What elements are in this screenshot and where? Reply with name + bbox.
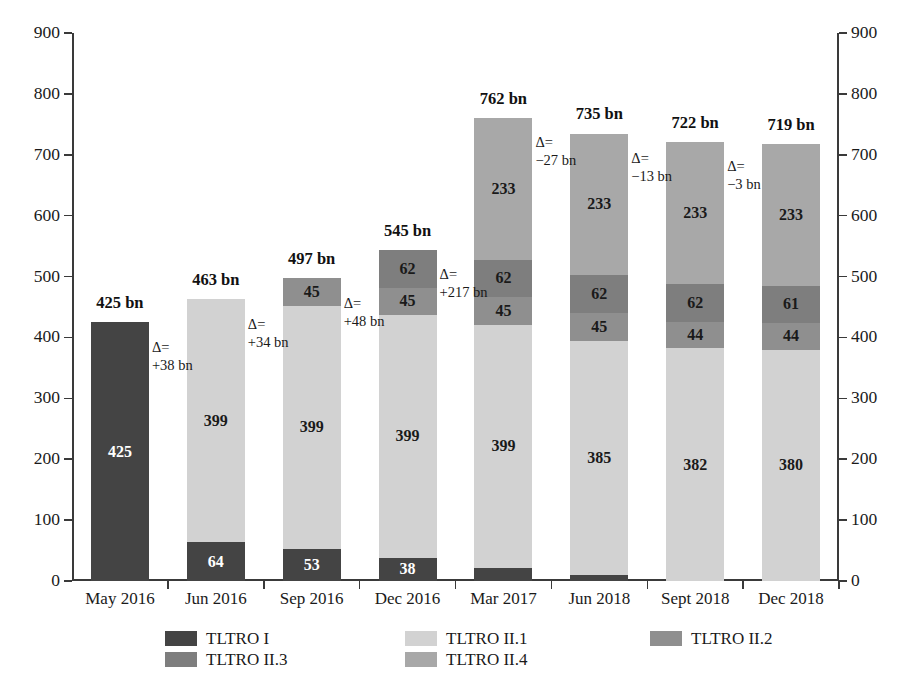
legend-item-tltro-i[interactable]: TLTRO I bbox=[165, 630, 405, 647]
bar-segment[interactable]: 44 bbox=[762, 323, 820, 350]
y-tick-r-100 bbox=[839, 519, 847, 521]
bar-stack[interactable]: 5339945 bbox=[283, 278, 341, 581]
delta-symbol: Δ= bbox=[631, 149, 672, 167]
bar-total-label: 545 bn bbox=[384, 221, 431, 241]
bar-segment-value: 382 bbox=[683, 457, 707, 473]
bar-stack[interactable]: 3854562233 bbox=[570, 134, 628, 582]
y-tick-label-l-600: 600 bbox=[34, 207, 60, 225]
bar-segment[interactable]: 62 bbox=[379, 250, 437, 288]
bar-total-label: 735 bn bbox=[576, 104, 623, 124]
y-tick-l-200 bbox=[64, 458, 72, 460]
bar-segment[interactable] bbox=[570, 575, 628, 581]
legend-swatch-icon bbox=[405, 652, 437, 667]
legend-item-tltro-ii-1[interactable]: TLTRO II.1 bbox=[405, 630, 650, 647]
bar-group[interactable]: 64399463 bn bbox=[168, 33, 264, 581]
legend-label: TLTRO I bbox=[206, 630, 269, 647]
bar-segment[interactable]: 425 bbox=[91, 322, 149, 581]
legend-swatch-icon bbox=[650, 631, 682, 646]
legend-item-tltro-ii-3[interactable]: TLTRO II.3 bbox=[165, 651, 405, 668]
bar-segment-value: 38 bbox=[400, 561, 416, 577]
x-tick bbox=[647, 581, 649, 589]
bar-segment[interactable]: 45 bbox=[570, 313, 628, 340]
bar-segment-value: 233 bbox=[779, 207, 803, 223]
bar-segment[interactable]: 61 bbox=[762, 286, 820, 323]
y-tick-r-400 bbox=[839, 337, 847, 339]
x-tick bbox=[167, 581, 169, 589]
bar-segment-value: 61 bbox=[783, 296, 799, 312]
bar-segment[interactable]: 380 bbox=[762, 350, 820, 581]
bar-segment[interactable]: 399 bbox=[187, 299, 245, 542]
bar-segment[interactable]: 62 bbox=[666, 284, 724, 322]
y-tick-l-100 bbox=[64, 519, 72, 521]
bar-segment[interactable]: 233 bbox=[666, 142, 724, 284]
bar-segment[interactable]: 64 bbox=[187, 542, 245, 581]
bar-segment[interactable]: 45 bbox=[474, 297, 532, 324]
y-tick-label-l-100: 100 bbox=[34, 511, 60, 529]
y-tick-r-800 bbox=[839, 93, 847, 95]
legend: TLTRO ITLTRO II.1TLTRO II.2TLTRO II.3TLT… bbox=[165, 628, 785, 670]
delta-value: −3 bn bbox=[727, 175, 761, 193]
delta-value: +38 bn bbox=[152, 356, 193, 374]
y-tick-label-l-300: 300 bbox=[34, 389, 60, 407]
bar-segment[interactable] bbox=[474, 568, 532, 581]
bar-group[interactable]: 3824462233722 bn bbox=[647, 33, 743, 581]
bar-stack[interactable]: 3804461233 bbox=[762, 144, 820, 581]
bar-segment[interactable]: 385 bbox=[570, 341, 628, 575]
bar-stack[interactable]: 383994562 bbox=[379, 250, 437, 581]
bar-group[interactable]: 3854562233735 bn bbox=[551, 33, 647, 581]
legend-label: TLTRO II.1 bbox=[446, 630, 528, 647]
bar-group[interactable]: 3804461233719 bn bbox=[743, 33, 839, 581]
x-axis-label-5: Jun 2018 bbox=[568, 590, 630, 607]
bar-segment-value: 62 bbox=[687, 295, 703, 311]
delta-annotation: Δ=+48 bn bbox=[344, 294, 385, 330]
bar-stack[interactable]: 3994562233 bbox=[474, 118, 532, 581]
legend-item-tltro-ii-4[interactable]: TLTRO II.4 bbox=[405, 651, 650, 668]
bar-segment-value: 233 bbox=[683, 205, 707, 221]
delta-annotation: Δ=+38 bn bbox=[152, 338, 193, 374]
bar-segment[interactable]: 53 bbox=[283, 549, 341, 581]
bar-group[interactable]: 3994562233762 bn bbox=[455, 33, 551, 581]
bar-segment[interactable]: 399 bbox=[474, 325, 532, 568]
bar-segment[interactable]: 382 bbox=[666, 348, 724, 581]
bar-group[interactable]: 425425 bn bbox=[72, 33, 168, 581]
bar-segment[interactable]: 233 bbox=[474, 118, 532, 260]
x-tick bbox=[551, 581, 553, 589]
bar-segment[interactable]: 399 bbox=[283, 306, 341, 549]
bars-layer: 425425 bn64399463 bn5339945497 bn3839945… bbox=[72, 33, 839, 581]
y-tick-label-l-400: 400 bbox=[34, 328, 60, 346]
y-tick-l-400 bbox=[64, 337, 72, 339]
bar-total-label: 463 bn bbox=[192, 270, 239, 290]
bar-segment[interactable]: 38 bbox=[379, 558, 437, 581]
bar-stack[interactable]: 425 bbox=[91, 322, 149, 581]
y-tick-label-r-300: 300 bbox=[851, 389, 877, 407]
bar-segment-value: 45 bbox=[304, 284, 320, 300]
delta-value: +34 bn bbox=[248, 333, 289, 351]
bar-segment-value: 44 bbox=[783, 328, 799, 344]
bar-segment[interactable]: 233 bbox=[762, 144, 820, 286]
x-tick bbox=[263, 581, 265, 589]
x-tick bbox=[359, 581, 361, 589]
legend-swatch-icon bbox=[165, 652, 197, 667]
bar-segment[interactable]: 62 bbox=[570, 275, 628, 313]
x-tick bbox=[455, 581, 457, 589]
y-tick-label-r-900: 900 bbox=[851, 24, 877, 42]
bar-segment-value: 399 bbox=[300, 419, 324, 435]
bar-segment[interactable]: 45 bbox=[379, 288, 437, 315]
bar-segment[interactable]: 399 bbox=[379, 315, 437, 558]
y-tick-label-l-700: 700 bbox=[34, 146, 60, 164]
legend-item-tltro-ii-2[interactable]: TLTRO II.2 bbox=[650, 630, 850, 647]
legend-label: TLTRO II.4 bbox=[446, 651, 528, 668]
bar-stack[interactable]: 64399 bbox=[187, 299, 245, 581]
bar-stack[interactable]: 3824462233 bbox=[666, 142, 724, 581]
delta-annotation: Δ=+217 bn bbox=[440, 265, 488, 301]
bar-segment[interactable]: 44 bbox=[666, 322, 724, 349]
bar-segment-value: 64 bbox=[208, 554, 224, 570]
y-tick-label-l-0: 0 bbox=[51, 572, 60, 590]
x-axis-label-7: Dec 2018 bbox=[758, 590, 824, 607]
bar-segment[interactable]: 233 bbox=[570, 134, 628, 276]
x-axis-label-4: Mar 2017 bbox=[470, 590, 537, 607]
bar-segment[interactable]: 45 bbox=[283, 278, 341, 305]
y-tick-l-500 bbox=[64, 276, 72, 278]
x-axis-label-6: Sept 2018 bbox=[661, 590, 729, 607]
y-tick-r-900 bbox=[839, 32, 847, 34]
